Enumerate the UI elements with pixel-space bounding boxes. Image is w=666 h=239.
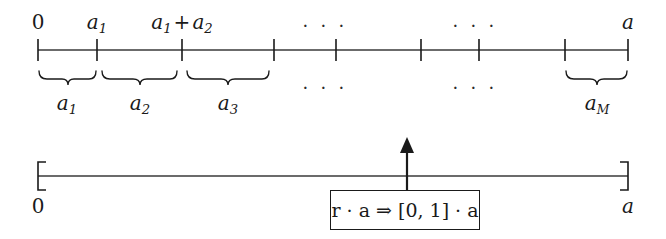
scaling-formula-text: r · a ⇒ [0, 1] · a: [331, 199, 478, 221]
label-zero-top: 0: [32, 12, 45, 32]
label-zero-bottom: 0: [32, 196, 45, 216]
brace-a3-base: a: [218, 91, 230, 115]
label-a1-plus-a2-top: a1+a2: [151, 12, 212, 35]
ellipsis-top-left: · · ·: [303, 17, 348, 35]
brace-a2: [102, 71, 177, 85]
brace-a2-sub: 2: [142, 102, 150, 117]
partition-diagram: 0 a1 a1+a2 · · · · · · a a1 a2 a3 aM · ·…: [0, 0, 666, 239]
top-axis-group: [38, 39, 628, 61]
brace-label-aM: aM: [585, 93, 610, 116]
brace-a1-sub: 1: [69, 102, 77, 117]
label-sum-base1: a: [151, 10, 163, 34]
brace-a1-base: a: [57, 91, 69, 115]
label-sum-sub2: 2: [204, 21, 212, 36]
ellipsis-brace-left: · · ·: [303, 79, 348, 97]
ellipsis-top-right: · · ·: [453, 17, 498, 35]
brace-aM-base: a: [585, 91, 597, 115]
brace-label-a1: a1: [57, 93, 77, 116]
random-draw-arrow: [400, 137, 414, 190]
scaling-formula-box: r · a ⇒ [0, 1] · a: [330, 190, 480, 230]
label-a-end-top: a: [622, 12, 634, 32]
label-a-bottom: a: [622, 196, 634, 216]
bottom-axis-group: [38, 162, 628, 190]
brace-label-a3: a3: [218, 93, 238, 116]
ellipsis-brace-right: · · ·: [453, 79, 498, 97]
brace-aM: [566, 71, 627, 85]
brace-a2-base: a: [130, 91, 142, 115]
arrow-head: [400, 137, 414, 153]
brace-aM-sub: M: [597, 102, 610, 117]
plus-sign: +: [172, 10, 193, 34]
label-a1-base: a: [87, 10, 99, 34]
brace-label-a2: a2: [130, 93, 150, 116]
label-a1-sub: 1: [99, 21, 107, 36]
brace-a3: [187, 71, 269, 85]
label-sum-base2: a: [192, 10, 204, 34]
brace-a1: [39, 71, 96, 85]
brace-a3-sub: 3: [230, 102, 238, 117]
label-a1-top: a1: [87, 12, 107, 35]
